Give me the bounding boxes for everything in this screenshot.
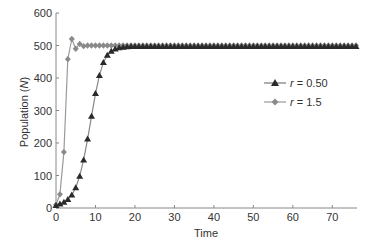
x-tick-label: 40 [208, 211, 220, 223]
x-tick-label: 30 [168, 211, 180, 223]
legend: r = 0.50 r = 1.5 [264, 77, 328, 108]
y-tick-label: 600 [34, 7, 52, 19]
y-axis-label: Population (N) [18, 77, 30, 147]
x-tick-label: 50 [247, 211, 259, 223]
y-tick-label: 200 [34, 137, 52, 149]
svg-text:r = 1.5: r = 1.5 [290, 96, 322, 108]
diamond-marker-icon [272, 99, 279, 106]
x-tick-label: 10 [89, 211, 101, 223]
x-axis: 010203040506070 [53, 205, 357, 223]
y-tick-label: 100 [34, 170, 52, 182]
y-tick-label: 500 [34, 40, 52, 52]
series-r-0-50 [53, 43, 360, 208]
svg-text:r = 0.50: r = 0.50 [290, 77, 328, 89]
legend-item-r-1-5: r = 1.5 [264, 96, 322, 108]
y-tick-label: 0 [46, 202, 52, 214]
population-chart: 0100200300400500600 010203040506070 Time… [0, 0, 378, 247]
plot-area [53, 36, 360, 208]
y-tick-label: 300 [34, 105, 52, 117]
legend-item-r-0-50: r = 0.50 [264, 77, 328, 89]
y-axis: 0100200300400500600 [34, 7, 59, 214]
x-tick-label: 60 [287, 211, 299, 223]
x-tick-label: 20 [129, 211, 141, 223]
x-axis-label: Time [194, 227, 218, 239]
series-r-1-5 [53, 36, 359, 208]
x-tick-label: 0 [53, 211, 59, 223]
y-tick-label: 400 [34, 72, 52, 84]
x-tick-label: 70 [326, 211, 338, 223]
